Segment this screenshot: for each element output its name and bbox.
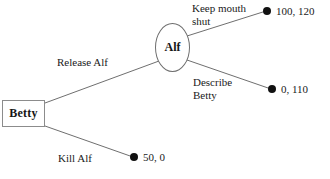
payoff-kill: 50, 0 xyxy=(143,151,165,163)
node-betty: Betty xyxy=(2,100,45,127)
node-alf-label: Alf xyxy=(165,40,181,55)
edge-label-release-alf: Release Alf xyxy=(57,56,108,69)
payoff-keep: 100, 120 xyxy=(276,5,315,17)
node-betty-label: Betty xyxy=(9,106,37,121)
edge-label-kill-alf: Kill Alf xyxy=(58,152,92,165)
game-tree-diagram: Betty Alf Release Alf Kill Alf Keep mout… xyxy=(0,0,330,179)
terminal-node-describe xyxy=(268,85,276,93)
payoff-describe: 0, 110 xyxy=(281,83,308,95)
edge-label-keep-mouth-shut: Keep mouth shut xyxy=(192,2,246,28)
node-alf: Alf xyxy=(155,23,190,72)
terminal-node-keep xyxy=(263,7,271,15)
terminal-node-kill xyxy=(130,153,138,161)
edge-label-describe-betty: Describe Betty xyxy=(193,76,232,102)
